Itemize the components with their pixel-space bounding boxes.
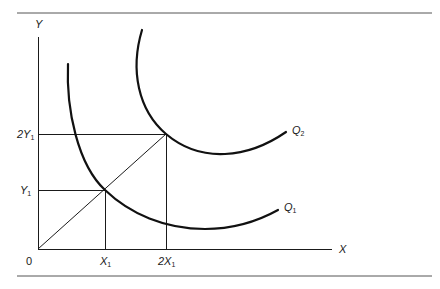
x-tick-2x1: 2X1 [157, 255, 175, 268]
y-tick-2y1: 2Y1 [16, 128, 34, 141]
label-q2: Q2 [292, 124, 305, 137]
y-axis-label: Y [35, 18, 43, 30]
expansion-ray [38, 134, 166, 249]
figure: Y X 0 2Y1 Y1 X1 2X1 Q2 Q1 [0, 0, 440, 289]
y-tick-y1: Y1 [20, 184, 31, 197]
origin-label: 0 [26, 255, 32, 267]
x-axis-label: X [338, 243, 347, 255]
isoquant-q1 [68, 64, 278, 229]
isoquant-q2 [137, 30, 286, 154]
x-tick-x1: X1 [99, 255, 111, 268]
label-q1: Q1 [284, 201, 297, 214]
